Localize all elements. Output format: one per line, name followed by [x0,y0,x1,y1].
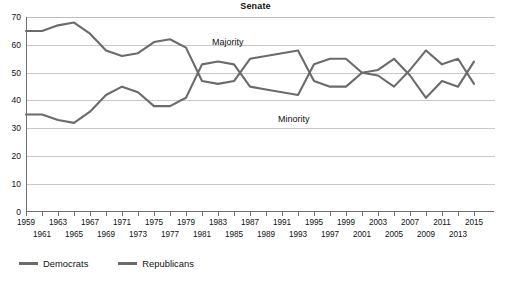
legend-swatch-republicans [118,262,137,265]
legend-item-republicans: Republicans [118,258,194,269]
annotation-majority: Majority [212,37,244,47]
annotation-minority: Minority [278,114,310,124]
legend-swatch-democrats [19,262,38,265]
series-layer [0,0,511,281]
senate-chart: Senate 70 60 50 40 30 20 10 0 1959196119… [0,0,511,281]
series-line-republicans [26,59,474,123]
legend-label-democrats: Democrats [43,258,88,269]
series-line-democrats [26,23,474,87]
legend-label-republicans: Republicans [142,258,194,269]
chart-legend: Democrats Republicans [19,258,194,269]
legend-item-democrats: Democrats [19,258,88,269]
